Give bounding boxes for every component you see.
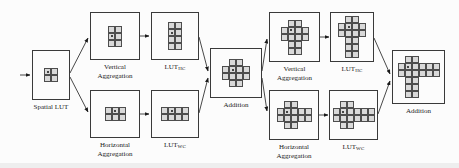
horizontal-aggregation-1-box — [90, 90, 140, 138]
grid-cell — [338, 23, 345, 30]
grid-cell — [302, 34, 309, 41]
grid-empty-cell — [398, 91, 405, 98]
vertical-aggregation-1-box — [90, 12, 140, 60]
lut-hc-1-label-base: LUT — [165, 63, 179, 71]
addition-1-box — [210, 48, 262, 98]
grid-cell — [288, 41, 295, 48]
pipeline-diagram: Spatial LUT Vertical Aggregation LUTHC H… — [0, 0, 459, 168]
grid-empty-cell — [368, 122, 375, 129]
grid-cell — [175, 29, 182, 36]
grid-cell — [412, 84, 419, 91]
grid-empty-cell — [419, 91, 426, 98]
grid-empty-cell — [277, 122, 284, 129]
grid-cell — [229, 66, 236, 73]
grid-cell — [347, 122, 354, 129]
grid-cell — [222, 73, 229, 80]
grid-cell — [175, 36, 182, 43]
grid-empty-cell — [433, 56, 440, 63]
grid-cell — [352, 37, 359, 44]
grid-cell — [405, 77, 412, 84]
grid-cell — [168, 29, 175, 36]
grid-cell — [115, 26, 122, 33]
arrow-lutwc2-to-add2 — [378, 81, 390, 114]
anchor-dot — [171, 32, 173, 34]
anchor-dot — [47, 71, 49, 73]
grid-empty-cell — [398, 56, 405, 63]
grid-cell — [405, 63, 412, 70]
anchor-dot — [111, 35, 113, 37]
page-scan-shadow — [0, 163, 459, 168]
grid-empty-cell — [433, 91, 440, 98]
vertical-aggregation-1-grid — [108, 26, 122, 47]
horizontal-aggregation-2-label: Horizontal Aggregation — [266, 143, 322, 160]
grid-cell — [298, 108, 305, 115]
grid-cell — [277, 115, 284, 122]
grid-cell — [405, 70, 412, 77]
grid-empty-cell — [338, 51, 345, 58]
anchor-dot — [348, 26, 350, 28]
grid-cell — [345, 51, 352, 58]
grid-empty-cell — [338, 16, 345, 23]
grid-cell — [115, 40, 122, 47]
arrow-luthc1-to-add1 — [199, 37, 208, 71]
vertical-aggregation-2-label: Vertical Aggregation — [267, 65, 323, 82]
grid-cell — [398, 63, 405, 70]
addition-1-label: Addition — [224, 101, 249, 110]
vertical-aggregation-2-box — [269, 12, 320, 62]
anchor-dot — [342, 111, 344, 113]
grid-cell — [168, 114, 175, 121]
grid-cell — [51, 68, 58, 75]
grid-cell — [281, 34, 288, 41]
grid-empty-cell — [354, 101, 361, 108]
grid-empty-cell — [277, 101, 284, 108]
grid-cell — [168, 36, 175, 43]
grid-cell — [412, 70, 419, 77]
grid-cell — [288, 27, 295, 34]
node-lut-wc-2: LUTWC — [329, 90, 378, 154]
grid-cell — [354, 115, 361, 122]
addition-2-box — [392, 50, 445, 104]
grid-empty-cell — [281, 20, 288, 27]
node-vertical-aggregation-2: Vertical Aggregation — [269, 12, 320, 82]
grid-cell — [291, 122, 298, 129]
node-addition-2: Addition — [392, 50, 445, 116]
grid-empty-cell — [281, 41, 288, 48]
arrow-add1-to-ha2 — [262, 78, 267, 111]
node-spatial-lut: Spatial LUT — [32, 50, 70, 112]
horizontal-aggregation-1-label: Horizontal Aggregation — [87, 141, 143, 158]
lut-wc-1-grid — [161, 107, 189, 121]
grid-cell — [119, 114, 126, 121]
grid-cell — [345, 16, 352, 23]
grid-cell — [359, 23, 366, 30]
grid-cell — [112, 114, 119, 121]
grid-cell — [368, 115, 375, 122]
grid-cell — [333, 108, 340, 115]
lut-hc-2-label-base: LUT — [342, 65, 356, 73]
grid-cell — [305, 115, 312, 122]
grid-empty-cell — [433, 84, 440, 91]
grid-empty-cell — [398, 77, 405, 84]
anchor-dot — [407, 66, 409, 68]
grid-cell — [291, 108, 298, 115]
anchor-dot — [171, 110, 173, 112]
lut-wc-2-grid — [333, 101, 375, 129]
grid-cell — [229, 80, 236, 87]
lut-hc-1-label: LUTHC — [165, 63, 186, 74]
grid-cell — [354, 108, 361, 115]
grid-cell — [295, 20, 302, 27]
grid-cell — [288, 48, 295, 55]
grid-cell — [112, 107, 119, 114]
anchor-dot — [290, 29, 292, 31]
grid-cell — [345, 30, 352, 37]
grid-cell — [359, 30, 366, 37]
lut-wc-2-box — [329, 90, 378, 140]
horizontal-aggregation-2-grid — [277, 101, 312, 129]
grid-cell — [298, 115, 305, 122]
grid-cell — [222, 66, 229, 73]
grid-cell — [291, 115, 298, 122]
lut-hc-1-label-sub: HC — [178, 66, 185, 71]
grid-cell — [345, 44, 352, 51]
grid-empty-cell — [338, 44, 345, 51]
horizontal-aggregation-1-grid — [105, 107, 126, 121]
vertical-aggregation-2-grid — [281, 20, 309, 55]
